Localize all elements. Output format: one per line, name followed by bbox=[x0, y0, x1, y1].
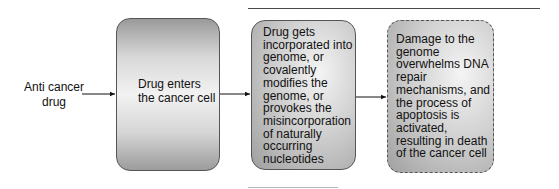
step-box-apoptosis: Damage to the genome overwhelms DNA repa… bbox=[387, 20, 494, 173]
step-text: Drug gets incorporated into genome, or c… bbox=[263, 26, 355, 166]
step-box-drug-enters-cell: Drug enters the cancer cell bbox=[116, 18, 220, 171]
step-box-genome-modification: Drug gets incorporated into genome, or c… bbox=[251, 20, 356, 170]
step-text: Drug enters the cancer cell bbox=[138, 77, 218, 105]
step-text: Damage to the genome overwhelms DNA repa… bbox=[396, 33, 493, 160]
